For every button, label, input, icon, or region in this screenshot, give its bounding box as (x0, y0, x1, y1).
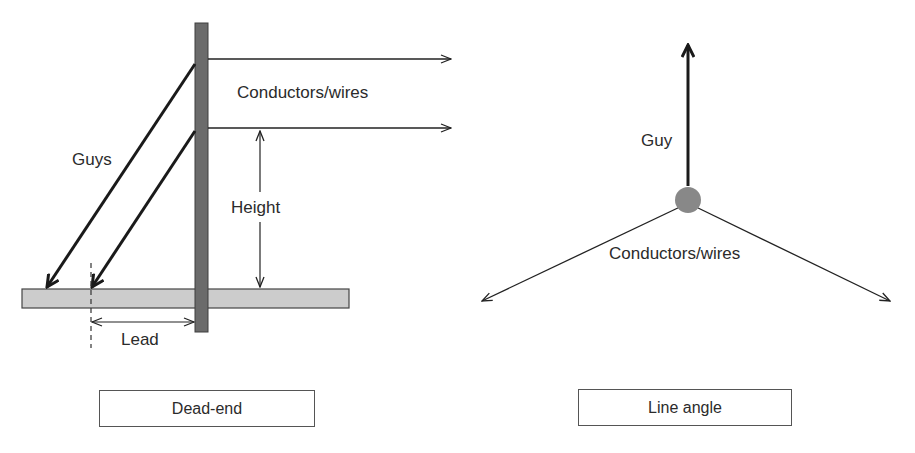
label-conductors-wires-angle: Conductors/wires (609, 244, 740, 263)
pole (195, 23, 208, 332)
caption-dead-end: Dead-end (99, 390, 315, 427)
pole-node (675, 187, 701, 213)
caption-dead-end-text: Dead-end (172, 400, 242, 418)
ground-bar (22, 289, 349, 308)
label-guys: Guys (72, 150, 112, 169)
caption-line-angle-text: Line angle (648, 399, 722, 417)
guy-wire-upper (47, 64, 195, 287)
caption-line-angle: Line angle (578, 389, 792, 426)
label-guy: Guy (641, 131, 673, 150)
label-lead: Lead (121, 330, 159, 349)
label-conductors-wires: Conductors/wires (237, 83, 368, 102)
line-angle-diagram: Guy Conductors/wires (482, 45, 890, 301)
label-height: Height (231, 198, 280, 217)
dead-end-diagram: Conductors/wires Guys Height Lead (22, 23, 451, 349)
diagram-canvas: Conductors/wires Guys Height Lead Guy Co… (0, 0, 915, 453)
